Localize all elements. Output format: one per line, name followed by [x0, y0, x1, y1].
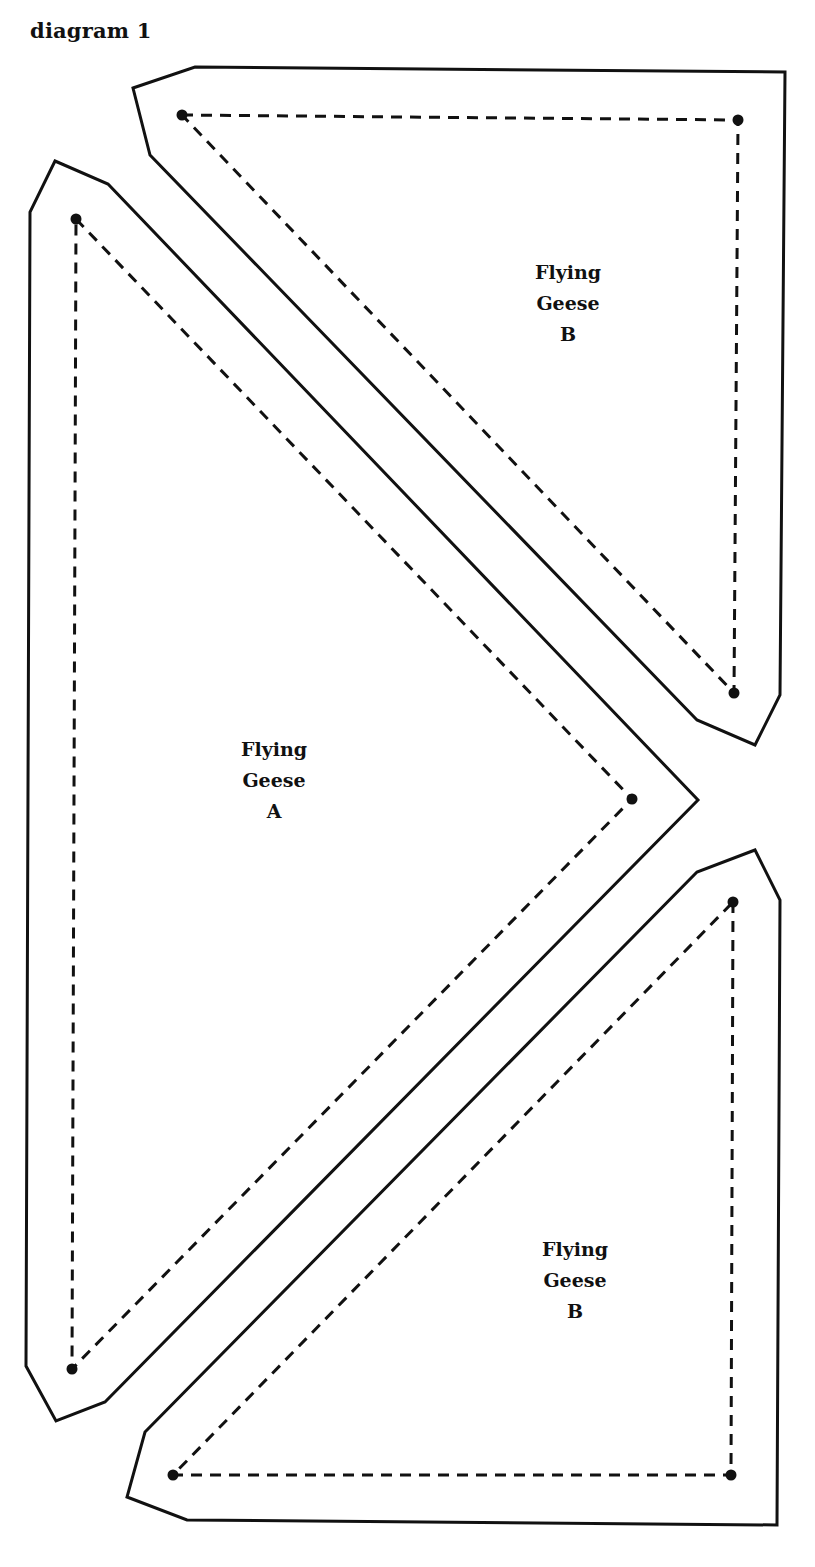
- label-line: Flying: [515, 1234, 635, 1265]
- seam-line: [72, 219, 632, 1369]
- label-line: Geese: [508, 288, 628, 319]
- label-line: Geese: [515, 1265, 635, 1296]
- label-line: Geese: [214, 765, 334, 796]
- corner-dot: [729, 688, 740, 699]
- label-line: B: [515, 1296, 635, 1327]
- cutting-outline: [26, 161, 698, 1421]
- corner-dot: [733, 115, 744, 126]
- label-line: A: [214, 796, 334, 827]
- piece-label-a: Flying Geese A: [214, 734, 334, 827]
- seam-line: [182, 115, 738, 693]
- label-line: Flying: [214, 734, 334, 765]
- corner-dot: [71, 214, 82, 225]
- corner-dot: [67, 1364, 78, 1375]
- corner-dot: [728, 897, 739, 908]
- corner-dot: [168, 1470, 179, 1481]
- piece-flying-geese-b-top: [133, 67, 785, 745]
- corner-dot: [627, 794, 638, 805]
- label-line: B: [508, 319, 628, 350]
- piece-flying-geese-b-bottom: [127, 850, 780, 1525]
- piece-flying-geese-a: [26, 161, 698, 1421]
- seam-line: [173, 902, 733, 1475]
- corner-dot: [177, 110, 188, 121]
- pattern-canvas: [0, 0, 815, 1567]
- piece-label-b-top: Flying Geese B: [508, 257, 628, 350]
- corner-dot: [726, 1470, 737, 1481]
- piece-label-b-bottom: Flying Geese B: [515, 1234, 635, 1327]
- label-line: Flying: [508, 257, 628, 288]
